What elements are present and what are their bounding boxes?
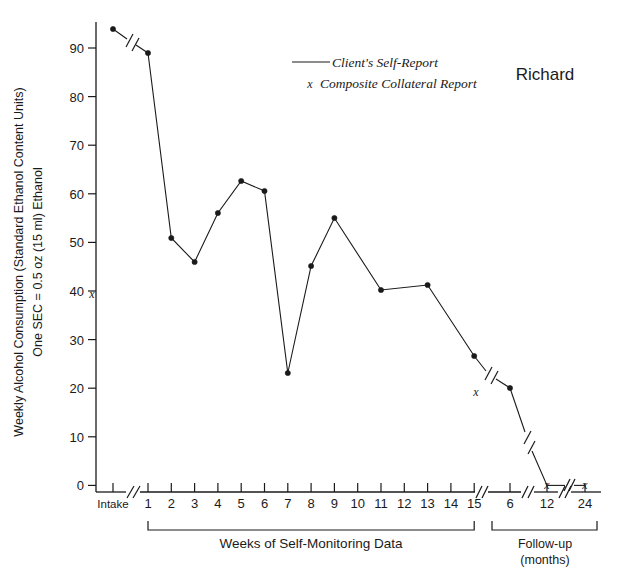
data-point-week-9 (332, 215, 337, 220)
x-axis-title-followup-line1: Follow-up (518, 537, 572, 551)
x-tick-label-week-14: 14 (444, 496, 458, 511)
legend: Client's Self-Report x Composite Collate… (292, 55, 478, 91)
followup-phase-bracket (492, 521, 597, 530)
y-tick-label-30: 30 (70, 333, 84, 348)
data-point-week-13 (425, 282, 430, 287)
x-tick-label-month-6: 6 (506, 496, 513, 511)
legend-label-client-self-report: Client's Self-Report (332, 55, 439, 70)
x-tick-label-week-10: 10 (350, 496, 364, 511)
x-tick-label-week-15: 15 (467, 496, 481, 511)
y-tick-label-70: 70 (70, 138, 84, 153)
x-tick-label-week-5: 5 (238, 496, 245, 511)
data-line-month6-to-break (510, 388, 525, 432)
y-tick-label-40: 40 (70, 284, 84, 299)
alcohol-consumption-line-chart: 90 80 70 60 50 40 30 20 10 0 Weekly Alco… (0, 0, 619, 580)
data-point-month-6 (507, 385, 512, 390)
x-tick-label-week-11: 11 (374, 496, 388, 511)
x-tick-label-week-4: 4 (214, 496, 221, 511)
y-axis-title-line1: Weekly Alcohol Consumption (Standard Eth… (12, 87, 26, 436)
data-point-week-5 (239, 178, 244, 183)
data-point-intake (110, 26, 115, 31)
x-tick-label-week-13: 13 (420, 496, 434, 511)
weeks-phase-bracket (148, 521, 474, 530)
x-axis-title-followup-line2: (months) (520, 553, 569, 567)
x-tick-label-week-3: 3 (191, 496, 198, 511)
collateral-x-marker-week-15: x (472, 385, 479, 399)
x-tick-label-week-9: 9 (331, 496, 338, 511)
collateral-x-marker-month-24: x (581, 478, 588, 492)
y-tick-label-20: 20 (70, 381, 84, 396)
y-axis-title-line2: One SEC = 0.5 oz (15 ml) Ethanol (31, 167, 45, 356)
chart-title: Richard (516, 65, 575, 84)
x-axis-week-labels: 1 2 3 4 5 6 7 8 9 10 11 12 13 14 15 (144, 496, 481, 511)
x-tick-label-month-12: 12 (540, 496, 554, 511)
x-tick-label-intake: Intake (97, 498, 128, 510)
data-point-week-15 (472, 353, 477, 358)
data-point-week-1 (145, 50, 150, 55)
collateral-x-marker-intake: x (88, 287, 95, 301)
x-tick-label-month-24: 24 (578, 496, 592, 511)
y-axis-tick-labels: 90 80 70 60 50 40 30 20 10 0 (70, 41, 84, 493)
data-point-week-3 (192, 259, 197, 264)
x-tick-label-week-6: 6 (261, 496, 268, 511)
y-tick-label-50: 50 (70, 235, 84, 250)
y-axis: 90 80 70 60 50 40 30 20 10 0 Weekly Alco… (12, 22, 96, 493)
y-tick-label-0: 0 (77, 478, 84, 493)
x-tick-label-week-8: 8 (307, 496, 314, 511)
x-axis-followup-labels: 6 12 24 (506, 496, 592, 511)
x-axis-week-ticks (148, 483, 474, 492)
x-tick-label-week-12: 12 (397, 496, 411, 511)
y-tick-label-80: 80 (70, 90, 84, 105)
data-line-break-mark-followup2 (524, 431, 535, 454)
y-axis-ticks (88, 48, 96, 485)
data-point-week-6 (262, 188, 267, 193)
chart-container: 90 80 70 60 50 40 30 20 10 0 Weekly Alco… (0, 0, 619, 580)
series-client-self-report (110, 26, 585, 491)
data-point-week-2 (169, 235, 174, 240)
x-axis-title-weeks: Weeks of Self-Monitoring Data (220, 536, 403, 551)
y-tick-label-10: 10 (70, 430, 84, 445)
data-point-week-11 (378, 287, 383, 292)
x-tick-label-week-7: 7 (284, 496, 291, 511)
data-line-break-mark-intake (126, 34, 139, 51)
data-line-break-mark-followup1 (485, 367, 498, 384)
data-line-weeks (148, 53, 474, 373)
series-composite-collateral-report: x x x x (88, 287, 588, 492)
legend-x-swatch: x (306, 77, 313, 91)
data-line-break-mark-followup3 (564, 479, 575, 491)
data-point-week-7 (285, 370, 290, 375)
collateral-x-marker-month-12: x (543, 478, 550, 492)
data-point-week-4 (215, 210, 220, 215)
y-tick-label-90: 90 (70, 41, 84, 56)
x-tick-label-week-2: 2 (168, 496, 175, 511)
data-point-week-8 (309, 263, 314, 268)
y-tick-label-60: 60 (70, 187, 84, 202)
x-axis: Intake 1 2 (96, 483, 601, 567)
legend-label-composite-collateral-report: Composite Collateral Report (320, 76, 478, 91)
x-tick-label-week-1: 1 (144, 496, 151, 511)
